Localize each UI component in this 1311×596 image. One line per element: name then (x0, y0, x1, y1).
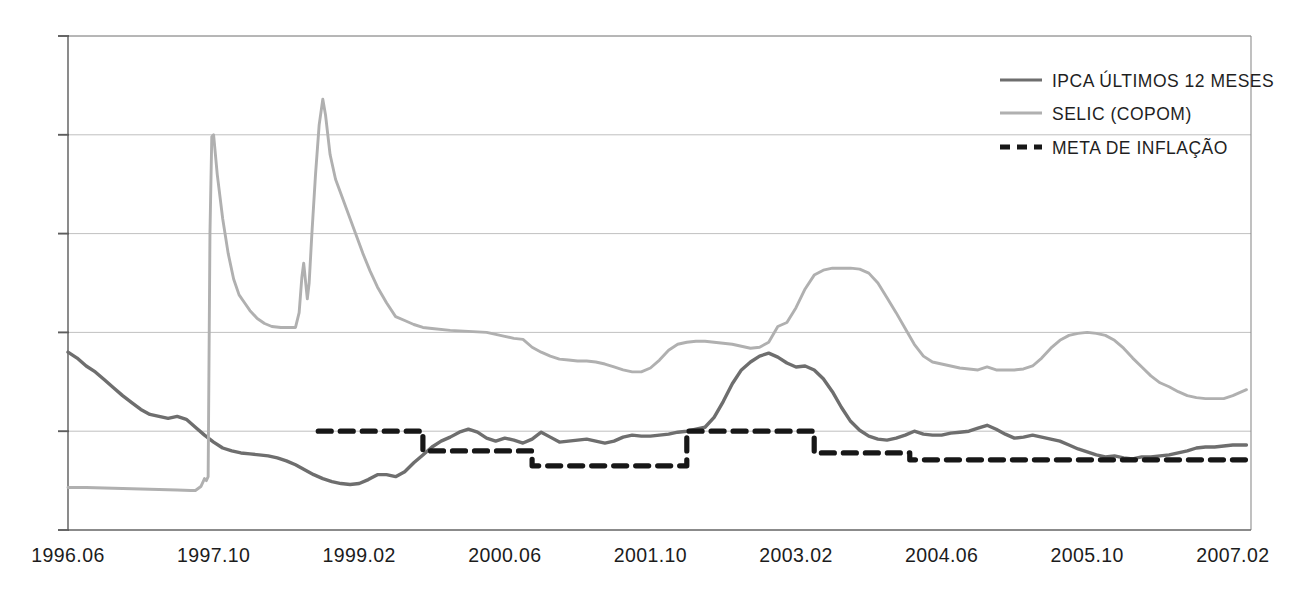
chart-container: 1996.061997.101999.022000.062001.102003.… (0, 0, 1311, 596)
series-line-selic (68, 99, 1246, 490)
legend-label-ipca: IPCA ÚLTIMOS 12 MESES (1052, 70, 1274, 91)
x-tick-label: 2001.10 (614, 544, 687, 566)
x-axis-tick-labels: 1996.061997.101999.022000.062001.102003.… (31, 544, 1269, 566)
data-series-group (68, 99, 1246, 490)
series-line-meta (318, 431, 1246, 466)
x-tick-label: 1996.06 (31, 544, 104, 566)
x-tick-label: 1999.02 (323, 544, 396, 566)
legend-label-meta: META DE INFLAÇÃO (1052, 137, 1228, 158)
x-tick-label: 1997.10 (177, 544, 250, 566)
x-tick-label: 2000.06 (468, 544, 541, 566)
chart-legend: IPCA ÚLTIMOS 12 MESESSELIC (COPOM)META D… (1000, 70, 1274, 158)
legend-label-selic: SELIC (COPOM) (1052, 104, 1192, 124)
x-tick-label: 2005.10 (1051, 544, 1124, 566)
x-tick-label: 2004.06 (905, 544, 978, 566)
x-tick-label: 2003.02 (759, 544, 832, 566)
line-chart: 1996.061997.101999.022000.062001.102003.… (0, 0, 1311, 596)
x-tick-label: 2007.02 (1196, 544, 1269, 566)
